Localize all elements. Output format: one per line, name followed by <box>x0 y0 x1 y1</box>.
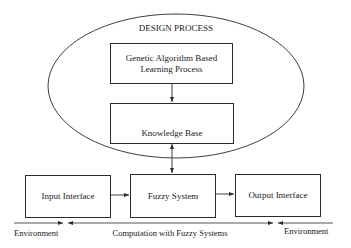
ga-node-line2: Learning Process <box>140 64 202 75</box>
input-interface-node: Input Interface <box>25 175 111 218</box>
output-interface-label: Output Interface <box>248 190 307 201</box>
left-environment-label: Environment <box>14 228 58 239</box>
input-interface-label: Input Interface <box>41 191 94 202</box>
computation-label: Computation with Fuzzy Systems <box>100 228 240 239</box>
output-interface-node: Output Interface <box>235 174 321 217</box>
knowledge-base-label: Knowledge Base <box>141 128 202 139</box>
fuzzy-system-label: Fuzzy System <box>148 191 199 202</box>
design-process-label: DESIGN PROCESS <box>126 23 226 34</box>
ga-node-line1: Genetic Algorithm Based <box>126 53 217 64</box>
knowledge-base-node: Knowledge Base <box>110 103 234 144</box>
ga-learning-process-node: Genetic Algorithm Based Learning Process <box>110 43 233 84</box>
right-environment-label: Environment <box>284 226 328 237</box>
fuzzy-system-node: Fuzzy System <box>130 174 216 218</box>
